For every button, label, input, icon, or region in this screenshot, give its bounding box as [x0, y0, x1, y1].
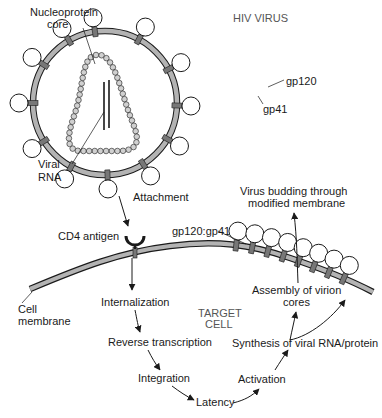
nucleoprotein-core	[66, 52, 139, 154]
gp41-label: gp41	[263, 103, 287, 115]
arrow-to-synthesis	[275, 350, 288, 370]
viral-rna-icon	[104, 80, 109, 130]
step-internalization: Internalization	[101, 296, 170, 308]
virus-budding-label-line2: modified membrane	[248, 197, 345, 209]
viral-rna-label-line2: RNA	[38, 171, 62, 183]
cell-membrane-label-line2: membrane	[18, 315, 71, 327]
arrow-to-assembly	[290, 312, 296, 340]
attachment-arrow	[119, 196, 128, 226]
cd4-antigen-label: CD4 antigen	[58, 230, 119, 242]
step-latency: Latency	[196, 396, 235, 408]
step-integration: Integration	[138, 372, 190, 384]
gp120-leader-line	[268, 80, 284, 87]
arrow-to-activation	[233, 389, 259, 403]
nucleoprotein-label-line2: core	[47, 18, 68, 30]
hiv-lifecycle-diagram: Nucleoprotein core HIV VIRUS gp120 gp41 …	[0, 0, 382, 418]
step-reverse-transcription: Reverse transcription	[108, 336, 212, 348]
step-synthesis: Synthesis of viral RNA/protein	[232, 337, 378, 349]
nucleoprotein-label: Nucleoprotein	[30, 6, 98, 18]
viral-rna-leader-line	[72, 112, 104, 164]
arrow-to-reverse-transcription	[135, 310, 140, 332]
cell-membrane-label: Cell	[18, 303, 37, 315]
arrow-to-latency	[172, 386, 194, 400]
target-cell-label-line2: CELL	[205, 318, 233, 330]
assembly-label-line2: cores	[283, 296, 310, 308]
gp120-label: gp120	[286, 75, 317, 87]
step-activation: Activation	[238, 373, 286, 385]
assembly-label: Assembly of virion	[252, 284, 341, 296]
viral-rna-label: Viral	[38, 158, 60, 170]
hiv-virus-title: HIV VIRUS	[233, 12, 288, 24]
virus-budding-label: Virus budding through	[240, 185, 347, 197]
gp120-gp41-label: gp120:gp41	[172, 225, 230, 237]
arrow-to-integration	[148, 350, 160, 370]
attachment-label: Attachment	[133, 191, 189, 203]
cell-membrane-leader-line	[22, 292, 32, 303]
